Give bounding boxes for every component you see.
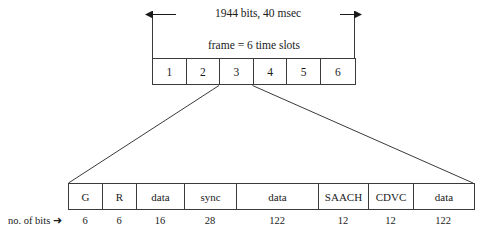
- burst-structure-row: G R data sync data SAACH CDVC data: [68, 183, 475, 210]
- right-arrow-icon: ➜: [53, 215, 62, 226]
- burst-field-cdvc: CDVC: [369, 184, 414, 209]
- bit-count-cdvc: 12: [368, 212, 413, 228]
- bit-count-label-text: no. of bits: [8, 215, 50, 226]
- time-slot-3: 3: [220, 59, 254, 84]
- bit-count-row: 6 6 16 28 122 12 12 122: [68, 212, 473, 228]
- time-slot-4: 4: [254, 59, 288, 84]
- frame-caption: frame = 6 time slots: [153, 38, 355, 53]
- time-slot-5: 5: [287, 59, 321, 84]
- projection-line-right: [253, 86, 474, 184]
- time-slot-1: 1: [153, 59, 187, 84]
- bit-count-data-2: 122: [236, 212, 318, 228]
- bit-count-guard: 6: [68, 212, 102, 228]
- frame-dimension-label: 1944 bits, 40 msec: [176, 6, 340, 21]
- burst-field-ramp: R: [103, 184, 137, 209]
- burst-field-data-2: data: [237, 184, 319, 209]
- bit-count-ramp: 6: [102, 212, 136, 228]
- bit-count-label: no. of bits ➜: [8, 212, 62, 228]
- bit-count-data-1: 16: [136, 212, 184, 228]
- projection-line-left: [69, 86, 220, 184]
- burst-field-data-3: data: [414, 184, 474, 209]
- time-slot-6: 6: [321, 59, 355, 84]
- burst-field-saach: SAACH: [319, 184, 369, 209]
- bit-count-data-3: 122: [413, 212, 473, 228]
- time-slot-2: 2: [187, 59, 221, 84]
- tdma-frame-diagram: 1944 bits, 40 msec frame = 6 time slots …: [0, 0, 490, 237]
- bit-count-saach: 12: [318, 212, 368, 228]
- burst-field-guard: G: [69, 184, 103, 209]
- bit-count-sync: 28: [184, 212, 236, 228]
- burst-field-sync: sync: [185, 184, 237, 209]
- burst-field-data-1: data: [137, 184, 185, 209]
- time-slot-row: 1 2 3 4 5 6: [152, 58, 356, 85]
